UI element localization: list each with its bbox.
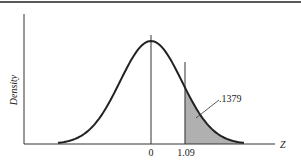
tick-label-0: 0	[149, 147, 154, 158]
x-axis-label: Z	[280, 139, 286, 150]
y-axis-label: Density	[8, 74, 19, 106]
area-leader-line	[196, 100, 219, 118]
area-label: .1379	[219, 93, 242, 104]
tick-label-1-09: 1.09	[177, 147, 195, 158]
normal-density-chart: .1379 0 1.09 Z Density	[0, 0, 301, 162]
